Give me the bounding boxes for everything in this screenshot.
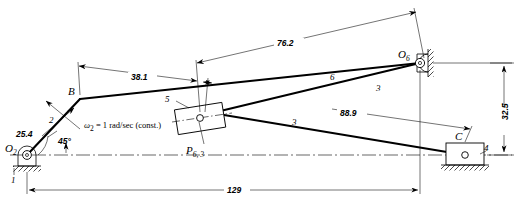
dim-label-45deg: 45° xyxy=(57,136,71,146)
dim-label-32-5-top: 32.5 xyxy=(500,103,510,120)
dim-label-129-top: 129 xyxy=(227,185,241,195)
dim-label-38-1-top: 38.1 xyxy=(131,72,148,82)
link-label-5: 5 xyxy=(165,94,170,104)
link-label-3-right: 3 xyxy=(375,83,381,93)
link-label-2: 2 xyxy=(49,115,54,125)
extension-lines xyxy=(27,8,514,194)
link-number-labels: 1 2 5 6 3 3 4 xyxy=(11,72,489,185)
link-4-slider-c xyxy=(441,143,489,171)
link-label-6: 6 xyxy=(330,72,335,82)
figure-canvas: O2 B P6, 3 O6 C 1 2 5 6 3 3 4 25.4 45° 3… xyxy=(0,0,520,203)
omega-annotation: ω2 = 1 rad/sec (const.) xyxy=(84,120,161,133)
joint-label-o6: O6 xyxy=(398,48,410,63)
linkage-drawing: O2 B P6, 3 O6 C 1 2 5 6 3 3 4 25.4 45° 3… xyxy=(0,0,520,203)
link-5-slider-block xyxy=(172,102,232,134)
omega-note-text: ω2 = 1 rad/sec (const.) xyxy=(84,120,161,133)
joint-label-p63: P6, 3 xyxy=(185,144,204,159)
dim-label-88-9-top: 88.9 xyxy=(340,108,357,118)
pivot-o2 xyxy=(13,146,41,172)
joint-label-c: C xyxy=(455,130,463,142)
dimension-labels: 25.4 45° 38.1 76.2 88.9 32.5 129 xyxy=(15,37,510,195)
link-label-4: 4 xyxy=(484,143,489,153)
dim-label-25-4: 25.4 xyxy=(15,129,33,139)
link-label-1: 1 xyxy=(11,175,16,185)
joint-label-b: B xyxy=(68,85,75,97)
link-label-3-lower: 3 xyxy=(291,117,297,127)
dim-label-76-2-top: 76.2 xyxy=(277,38,294,48)
